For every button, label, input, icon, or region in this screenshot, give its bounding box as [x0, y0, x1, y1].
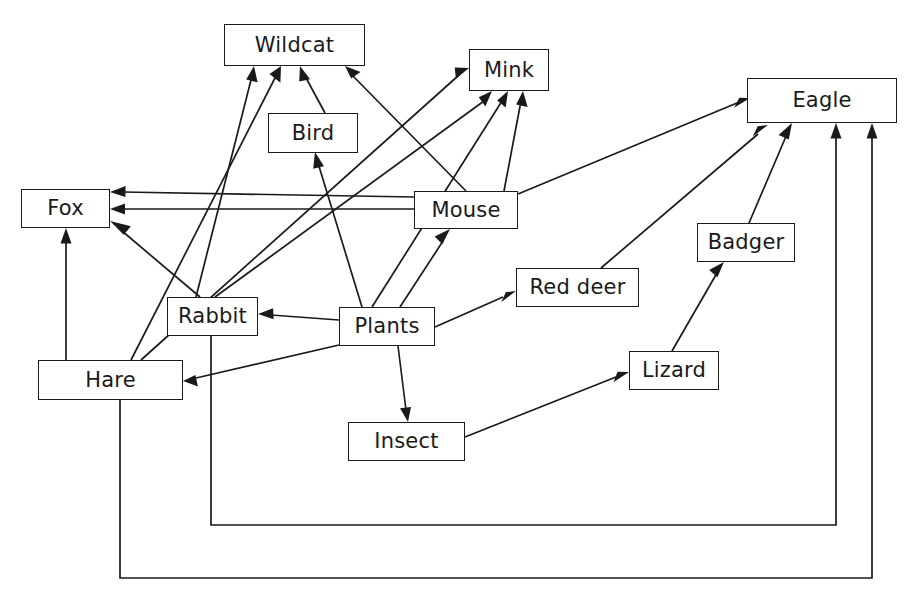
node-hare[interactable]: Hare — [38, 360, 183, 400]
node-bird[interactable]: Bird — [268, 113, 358, 153]
edge-plants-to-rabbit — [258, 308, 339, 320]
node-label-bird: Bird — [292, 123, 335, 144]
edge-plants-to-insect — [398, 346, 411, 422]
node-label-plants: Plants — [354, 316, 419, 337]
edge-rabbit-to-fox — [110, 221, 200, 297]
node-mouse[interactable]: Mouse — [414, 191, 518, 229]
node-rabbit[interactable]: Rabbit — [167, 297, 258, 336]
food-web-diagram: Wildcat Mink Eagle Bird Fox Mouse Badger… — [0, 0, 909, 602]
edge-hare-to-fox — [61, 228, 72, 360]
node-label-mouse: Mouse — [431, 200, 500, 221]
edge-rabbit-to-wildcat — [196, 66, 258, 297]
edge-mouse-to-fox-upper — [110, 186, 414, 197]
node-badger[interactable]: Badger — [697, 223, 795, 262]
node-label-wildcat: Wildcat — [255, 35, 334, 56]
edge-plants-to-hare — [183, 345, 339, 386]
edge-plants-to-bird — [313, 152, 362, 307]
edge-plants-to-mouse — [400, 229, 450, 307]
edge-mouse-to-wildcat — [345, 66, 466, 191]
node-red-deer[interactable]: Red deer — [516, 268, 639, 307]
node-label-hare: Hare — [85, 370, 136, 391]
node-label-lizard: Lizard — [642, 360, 706, 381]
edge-insect-to-lizard — [465, 372, 629, 437]
node-label-eagle: Eagle — [792, 90, 851, 111]
node-plants[interactable]: Plants — [339, 307, 435, 346]
node-fox[interactable]: Fox — [21, 189, 110, 228]
node-insect[interactable]: Insect — [348, 422, 465, 461]
node-label-mink: Mink — [484, 60, 534, 81]
node-label-fox: Fox — [47, 198, 84, 219]
node-label-rabbit: Rabbit — [178, 306, 247, 327]
node-lizard[interactable]: Lizard — [629, 351, 719, 390]
edge-mouse-to-fox-horizontal — [110, 204, 414, 215]
edge-bird-to-wildcat — [299, 66, 325, 113]
edge-lizard-to-badger — [672, 262, 724, 351]
edge-badger-to-eagle — [749, 123, 792, 223]
edge-rabbit-to-eagle — [211, 123, 842, 525]
node-label-red-deer: Red deer — [530, 277, 626, 298]
node-label-insect: Insect — [374, 431, 438, 452]
node-wildcat[interactable]: Wildcat — [224, 24, 365, 66]
edge-mouse-to-mink — [504, 91, 528, 191]
node-label-badger: Badger — [708, 232, 785, 253]
node-mink[interactable]: Mink — [469, 49, 549, 91]
edge-plants-to-reddeer — [435, 291, 516, 327]
edge-mouse-to-eagle — [518, 98, 750, 194]
node-eagle[interactable]: Eagle — [747, 78, 897, 123]
